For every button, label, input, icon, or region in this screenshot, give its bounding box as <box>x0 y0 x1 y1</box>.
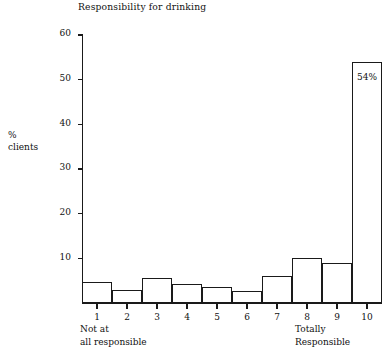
bar-value-label: 54% <box>357 72 377 82</box>
x-axis-tick <box>186 304 187 309</box>
plot-area: 102030405060 54% 12345678910 <box>82 35 382 303</box>
x-axis-tick <box>366 304 367 309</box>
y-axis-tick: 30 <box>78 168 83 170</box>
bar <box>262 276 292 303</box>
bar: 54% <box>352 62 382 303</box>
y-axis-tick: 20 <box>78 213 83 215</box>
x-axis-tick <box>96 304 97 309</box>
y-axis-tick-label: 10 <box>60 252 71 262</box>
bar <box>112 290 142 303</box>
x-axis-tick <box>336 304 337 309</box>
x-axis-tick-label: 1 <box>94 312 100 322</box>
x-axis-tick-label: 4 <box>184 312 190 322</box>
y-axis-tick: 60 <box>78 34 83 36</box>
x-axis-right-endpoint-line-2: Responsible <box>295 336 350 349</box>
y-axis-tick-label: 40 <box>60 118 71 128</box>
x-axis-tick <box>216 304 217 309</box>
x-axis-tick-label: 3 <box>154 312 160 322</box>
bar <box>202 287 232 303</box>
x-axis-tick <box>246 304 247 309</box>
y-axis-tick: 40 <box>78 124 83 126</box>
x-axis-tick-label: 8 <box>304 312 310 322</box>
bar <box>322 263 352 303</box>
y-axis-label-line-2: clients <box>8 142 38 154</box>
x-axis-tick-label: 6 <box>244 312 250 322</box>
y-axis-label-line-1: % <box>8 130 38 142</box>
bar <box>142 278 172 303</box>
chart-figure: Responsibility for drinking % clients 10… <box>0 0 388 362</box>
x-axis-tick-label: 10 <box>361 312 372 322</box>
x-axis-left-endpoint-label: Not at all responsible <box>80 323 147 348</box>
x-axis-tick-label: 7 <box>274 312 280 322</box>
bar <box>232 291 262 304</box>
x-axis-tick-label: 5 <box>214 312 220 322</box>
x-axis-left-endpoint-line-1: Not at <box>80 323 147 336</box>
bar <box>82 282 112 303</box>
bar <box>172 284 202 303</box>
y-axis-tick: 50 <box>78 79 83 81</box>
x-axis-tick-label: 9 <box>334 312 340 322</box>
y-axis-label: % clients <box>8 130 38 153</box>
y-axis-tick-label: 50 <box>60 73 71 83</box>
y-axis-tick-label: 30 <box>60 162 71 172</box>
x-axis-right-endpoint-label: Totally Responsible <box>295 323 350 348</box>
x-axis-tick-label: 2 <box>124 312 130 322</box>
x-axis-tick <box>306 304 307 309</box>
x-axis-tick <box>126 304 127 309</box>
x-axis-right-endpoint-line-1: Totally <box>295 323 350 336</box>
chart-title: Responsibility for drinking <box>78 1 206 12</box>
y-axis-tick: 10 <box>78 258 83 260</box>
x-axis-tick <box>276 304 277 309</box>
y-axis-tick-label: 20 <box>60 207 71 217</box>
x-axis-left-endpoint-line-2: all responsible <box>80 336 147 349</box>
x-axis-tick <box>156 304 157 309</box>
y-axis-tick-label: 60 <box>60 28 71 38</box>
bar <box>292 258 322 303</box>
